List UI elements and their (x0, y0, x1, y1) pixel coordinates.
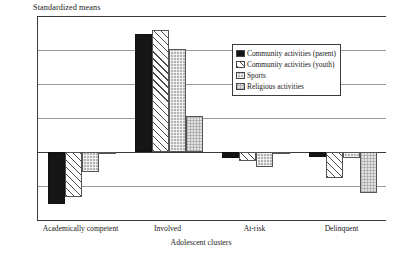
legend-label: Religious activities (247, 81, 304, 92)
bar (309, 152, 326, 157)
legend-label: Community activities (parent) (247, 48, 336, 59)
legend-item: Community activities (parent) (236, 48, 336, 59)
bar (326, 152, 343, 178)
bar (256, 152, 273, 167)
x-axis-title: Adolescent clusters (0, 238, 402, 247)
bar (343, 152, 360, 158)
legend-swatch-community-youth (236, 61, 245, 68)
bar (222, 152, 239, 158)
legend-swatch-sports (236, 72, 245, 79)
bar-chart: Standardized means 1.20.90.60.30-0.3-0.6… (0, 0, 402, 262)
legend-swatch-religious (236, 83, 245, 90)
bar (186, 116, 203, 152)
x-axis-tick-labels: Academically competentInvolvedAt-riskDel… (37, 224, 385, 238)
legend-label: Sports (247, 70, 266, 81)
legend-item: Religious activities (236, 81, 336, 92)
bar (273, 152, 290, 154)
bar (239, 152, 256, 161)
legend-item: Sports (236, 70, 336, 81)
x-axis-tick-label: Delinquent (325, 224, 359, 233)
bar (152, 30, 169, 152)
bar (360, 152, 377, 193)
legend-label: Community activities (youth) (247, 59, 334, 70)
x-axis-tick-label: Academically competent (43, 224, 119, 233)
bar (135, 34, 152, 152)
bar (99, 152, 116, 154)
legend-item: Community activities (youth) (236, 59, 336, 70)
legend-swatch-community-parent (236, 50, 245, 57)
bar (82, 152, 99, 172)
bar-cluster (125, 16, 212, 220)
legend: Community activities (parent) Community … (232, 44, 341, 96)
y-axis-title: Standardized means (33, 3, 101, 12)
bar-cluster (38, 16, 125, 220)
x-axis-tick-label: Involved (154, 224, 181, 233)
bar (65, 152, 82, 197)
x-axis-tick-label: At-risk (244, 224, 266, 233)
bar (48, 152, 65, 204)
bar (169, 49, 186, 152)
